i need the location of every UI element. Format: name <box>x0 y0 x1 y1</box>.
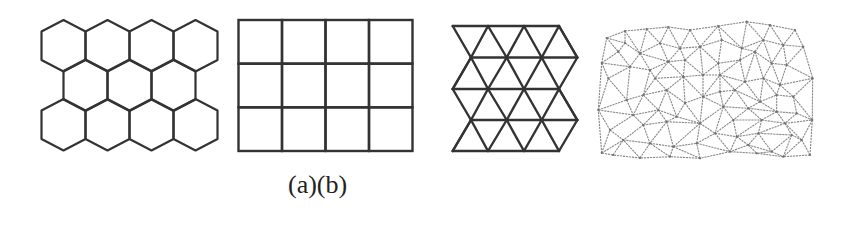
mesh-edge <box>602 63 609 78</box>
mesh-node <box>771 62 773 64</box>
mesh-edge <box>810 120 812 155</box>
square-cell <box>369 107 413 151</box>
mesh-node <box>736 136 738 138</box>
mesh-edge <box>742 40 764 48</box>
mesh-edge <box>748 102 760 109</box>
mesh-node <box>639 157 641 159</box>
mesh-edge <box>640 29 647 53</box>
mesh-edge <box>772 63 787 65</box>
mesh-edge <box>602 153 613 155</box>
mesh-edge <box>737 137 749 145</box>
mesh-edge <box>735 82 745 90</box>
hexagon-cell <box>42 99 86 151</box>
mesh-edge <box>633 95 643 115</box>
square-cell <box>282 20 326 64</box>
mesh-edge <box>683 77 685 103</box>
square-cell <box>326 20 370 64</box>
mesh-node <box>699 46 701 48</box>
triangle-edge <box>559 89 577 120</box>
mesh-edge <box>720 92 723 107</box>
mesh-edge <box>660 27 668 43</box>
mesh-edge <box>680 47 700 49</box>
mesh-edge <box>643 125 650 143</box>
triangle-edge <box>524 120 542 151</box>
mesh-edge <box>700 123 715 133</box>
mesh-edge <box>783 45 786 65</box>
triangle-edge <box>488 120 507 151</box>
triangle-edge <box>542 89 559 120</box>
mesh-edge <box>643 70 650 95</box>
mesh-node <box>722 106 724 108</box>
mesh-edge <box>685 97 703 103</box>
mesh-edge <box>777 112 785 124</box>
mesh-node <box>626 99 628 101</box>
mesh-node <box>776 94 778 96</box>
mesh-node <box>679 47 681 49</box>
mesh-edge <box>700 47 703 75</box>
square-cell <box>282 107 326 151</box>
mesh-node <box>761 119 763 121</box>
irregular-mesh-panel <box>597 21 814 160</box>
square-cell <box>239 64 283 108</box>
mesh-edge <box>640 53 650 70</box>
mesh-edge <box>718 63 720 75</box>
mesh-edge <box>697 143 730 151</box>
triangle-edge <box>507 26 524 58</box>
mesh-edge <box>772 135 792 152</box>
mesh-edge <box>760 78 763 101</box>
mesh-edge <box>602 63 630 67</box>
mesh-node <box>601 152 603 154</box>
square-cell <box>239 20 283 64</box>
triangle-edge <box>524 89 542 120</box>
mesh-node <box>762 77 764 79</box>
mesh-node <box>601 62 603 64</box>
mesh-edge <box>700 47 718 64</box>
mesh-edge <box>697 133 715 143</box>
mesh-edge <box>680 30 690 48</box>
mesh-node <box>782 44 784 46</box>
mesh-node <box>676 116 678 118</box>
mesh-edge <box>640 157 670 158</box>
mesh-node <box>702 74 704 76</box>
mesh-edge <box>723 107 733 120</box>
triangle-edge <box>559 58 577 90</box>
mesh-node <box>786 64 788 66</box>
mesh-edge <box>740 48 742 60</box>
mesh-edge <box>608 67 630 79</box>
triangle-edge <box>488 26 507 58</box>
mesh-node <box>769 24 771 26</box>
mesh-node <box>796 112 798 114</box>
mesh-edge <box>598 110 633 115</box>
mesh-edge <box>660 43 680 48</box>
mesh-edge <box>783 155 810 157</box>
mesh-edge <box>780 65 787 85</box>
mesh-edge <box>598 110 601 153</box>
mesh-edge <box>685 60 703 75</box>
mesh-node <box>607 77 609 79</box>
figure-caption: (a)(b) <box>288 170 347 200</box>
mesh-edge <box>748 108 761 120</box>
mesh-edge <box>668 60 685 62</box>
mesh-node <box>654 77 656 79</box>
mesh-edge <box>757 153 784 156</box>
mesh-edge <box>633 110 658 115</box>
mesh-node <box>642 94 644 96</box>
mesh-node <box>699 157 701 159</box>
mesh-edge <box>610 115 633 130</box>
mesh-edge <box>667 117 677 122</box>
mesh-edge <box>787 47 804 65</box>
triangle-edge <box>488 89 507 120</box>
mesh-node <box>659 42 661 44</box>
mesh-edge <box>783 45 803 47</box>
mesh-node <box>747 144 749 146</box>
mesh-edge <box>667 122 674 147</box>
mesh-edge <box>733 120 736 137</box>
mesh-edge <box>758 123 785 133</box>
mesh-node <box>809 154 811 156</box>
mesh-node <box>759 101 761 103</box>
mesh-node <box>666 89 668 91</box>
triangle-edge <box>453 120 471 151</box>
mesh-edge <box>627 100 634 115</box>
mesh-edge <box>802 140 810 155</box>
mesh-edge <box>608 78 626 100</box>
